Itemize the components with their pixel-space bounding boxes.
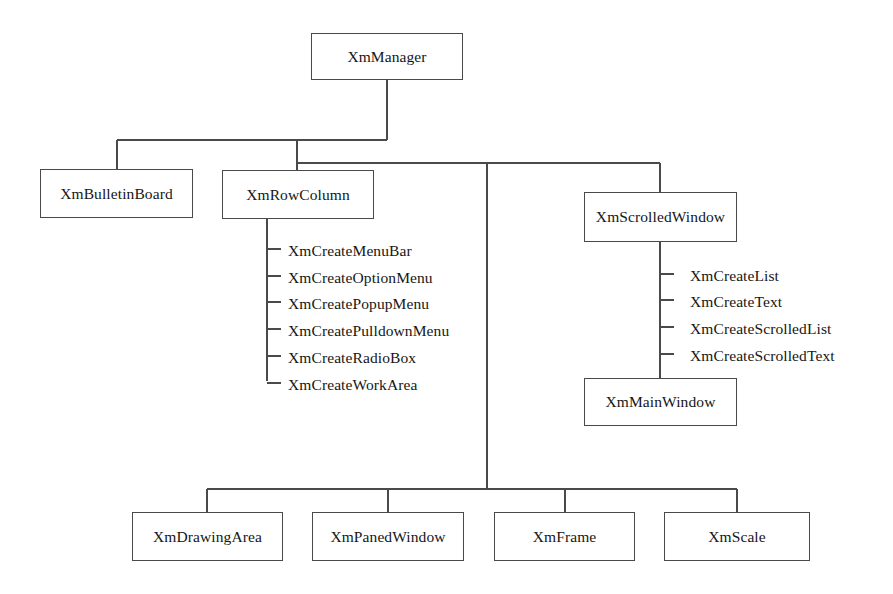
- node-label: XmScrolledWindow: [596, 208, 725, 226]
- rowcolumn-function-label: XmCreateMenuBar: [288, 243, 412, 259]
- node-label: XmManager: [347, 48, 426, 66]
- node-label: XmBulletinBoard: [60, 185, 173, 203]
- node-root: XmManager: [311, 33, 463, 80]
- node-xmbulletinboard: XmBulletinBoard: [40, 169, 193, 218]
- scrolledwindow-function-label: XmCreateList: [690, 268, 779, 284]
- node-label: XmRowColumn: [246, 186, 350, 204]
- node-xmframe: XmFrame: [494, 512, 635, 561]
- rowcolumn-function-label: XmCreateRadioBox: [288, 350, 416, 366]
- node-label: XmFrame: [533, 528, 597, 546]
- node-xmpanedwindow: XmPanedWindow: [312, 512, 464, 561]
- node-xmdrawingarea: XmDrawingArea: [132, 512, 283, 561]
- scrolledwindow-function-label: XmCreateScrolledList: [690, 321, 831, 337]
- node-label: XmScale: [708, 528, 766, 546]
- rowcolumn-function-label: XmCreatePopupMenu: [288, 296, 429, 312]
- node-xmmainwindow: XmMainWindow: [584, 378, 737, 426]
- rowcolumn-function-label: XmCreateWorkArea: [288, 377, 417, 393]
- node-xmrowcolumn: XmRowColumn: [222, 170, 374, 219]
- rowcolumn-function-label: XmCreateOptionMenu: [288, 270, 433, 286]
- node-label: XmPanedWindow: [330, 528, 445, 546]
- node-label: XmMainWindow: [606, 393, 716, 411]
- scrolledwindow-function-label: XmCreateText: [690, 294, 782, 310]
- node-label: XmDrawingArea: [153, 528, 262, 546]
- scrolledwindow-function-label: XmCreateScrolledText: [690, 348, 835, 364]
- rowcolumn-function-label: XmCreatePulldownMenu: [288, 323, 449, 339]
- node-xmscrolledwindow: XmScrolledWindow: [584, 192, 737, 242]
- widget-hierarchy-diagram: XmManager XmBulletinBoardXmRowColumnXmSc…: [0, 0, 893, 594]
- node-xmscale: XmScale: [664, 512, 810, 561]
